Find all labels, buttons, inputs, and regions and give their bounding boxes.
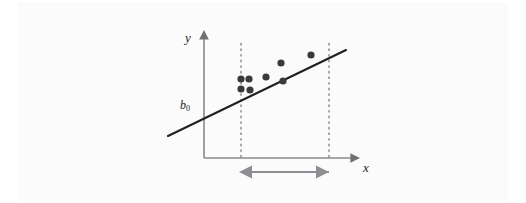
scatter-plot-diagram bbox=[0, 0, 526, 203]
data-point bbox=[277, 59, 284, 66]
figure-container: y x b0 bbox=[0, 0, 526, 203]
intercept-subscript: 0 bbox=[186, 104, 190, 113]
scatter-points bbox=[237, 51, 314, 93]
regression-line bbox=[168, 50, 346, 136]
data-point bbox=[307, 51, 314, 58]
data-point bbox=[262, 73, 269, 80]
x-axis-label: x bbox=[363, 161, 369, 174]
data-point bbox=[237, 85, 244, 92]
y-axis-label: y bbox=[185, 31, 191, 44]
data-point bbox=[246, 86, 253, 93]
data-point bbox=[279, 77, 286, 84]
data-point bbox=[245, 75, 252, 82]
data-point bbox=[237, 75, 244, 82]
intercept-label: b0 bbox=[180, 99, 190, 111]
